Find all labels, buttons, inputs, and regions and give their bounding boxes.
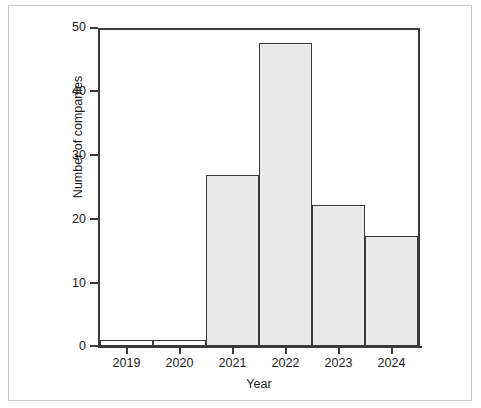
x-tick-cell-2022 [259,347,312,355]
x-tick-cell-2024 [365,347,418,355]
y-tick-mark-40 [90,90,98,92]
x-tick-cell-2019 [100,347,153,355]
x-tick-cell-2021 [206,347,259,355]
bar-cell-2021 [206,28,259,346]
bar-cell-2022 [259,28,312,346]
x-tick-mark-2019 [126,347,128,354]
x-tick-mark-2022 [285,347,287,354]
y-axis-tick-labels: 50 40 30 20 10 0 Number of companies [42,0,86,408]
x-tick-label-2019: 2019 [100,357,153,370]
x-tick-mark-2020 [179,347,181,354]
y-tick-mark-30 [90,154,98,156]
x-tick-label-2024: 2024 [365,357,418,370]
y-tick-mark-10 [90,282,98,284]
x-tick-mark-2024 [391,347,393,354]
x-tick-label-2023: 2023 [312,357,365,370]
x-axis-tick-marks [100,347,418,355]
x-axis-title: Year [98,377,420,391]
bar-2022[interactable] [259,43,312,346]
x-tick-mark-2021 [232,347,234,354]
x-tick-label-2020: 2020 [153,357,206,370]
bar-chart-figure: 50 40 30 20 10 0 Number of companies 201… [0,0,481,408]
x-tick-label-2022: 2022 [259,357,312,370]
y-axis-title: Number of companies [71,57,85,217]
y-tick-label-10: 10 [46,277,86,290]
y-tick-mark-20 [90,218,98,220]
bar-2023[interactable] [312,205,365,346]
bar-2019[interactable] [100,340,153,346]
x-axis-tick-labels: 2019 2020 2021 2022 2023 2024 [100,357,418,370]
x-tick-cell-2020 [153,347,206,355]
x-tick-cell-2023 [312,347,365,355]
y-tick-mark-50 [90,27,98,29]
bar-cell-2023 [312,28,365,346]
y-tick-mark-0 [90,345,98,347]
bar-2024[interactable] [365,236,418,346]
bar-cell-2024 [365,28,418,346]
bar-cell-2020 [153,28,206,346]
y-tick-label-0: 0 [46,340,86,353]
bar-cell-2019 [100,28,153,346]
bar-series [100,28,418,346]
x-tick-mark-2023 [338,347,340,354]
x-tick-label-2021: 2021 [206,357,259,370]
y-tick-label-50: 50 [46,21,86,34]
page-canvas: 50 40 30 20 10 0 Number of companies 201… [0,0,481,408]
bar-2021[interactable] [206,175,259,346]
bar-2020[interactable] [153,340,206,346]
